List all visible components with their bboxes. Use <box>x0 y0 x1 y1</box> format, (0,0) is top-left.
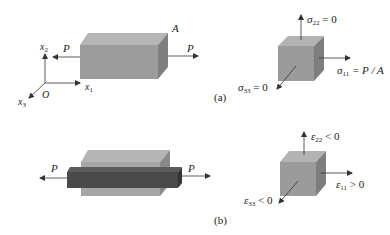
sigma22-label: σ22 = 0 <box>307 13 337 27</box>
panel-a: x2 x1 x3 O P P A σ22 = 0 σ11 = P / A σ33… <box>17 13 384 109</box>
load-label-right: P <box>186 42 194 54</box>
axis-x3-label: x3 <box>17 96 26 109</box>
sigma11-label: σ11 = P / A <box>337 64 384 78</box>
deformed-block <box>67 167 182 188</box>
load-label-right: P <box>187 162 195 174</box>
bar-block <box>80 33 168 79</box>
area-label: A <box>171 22 179 34</box>
caption-a: (a) <box>214 91 227 104</box>
panel-b: P P ε22 < 0 ε11 > 0 ε33 < 0 (b) <box>40 130 365 227</box>
origin-label: O <box>42 89 49 100</box>
eps11-label: ε11 > 0 <box>336 178 365 192</box>
eps33-label: ε33 < 0 <box>244 194 273 208</box>
figure: x2 x1 x3 O P P A σ22 = 0 σ11 = P / A σ33… <box>0 0 390 235</box>
sigma33-label: σ33 = 0 <box>238 81 268 95</box>
eps22-label: ε22 < 0 <box>311 130 340 144</box>
load-label-left: P <box>50 162 58 174</box>
caption-b: (b) <box>214 214 227 227</box>
axis-x1-label: x1 <box>84 81 93 94</box>
axis-x2-label: x2 <box>39 41 48 54</box>
load-label-left: P <box>62 42 70 54</box>
